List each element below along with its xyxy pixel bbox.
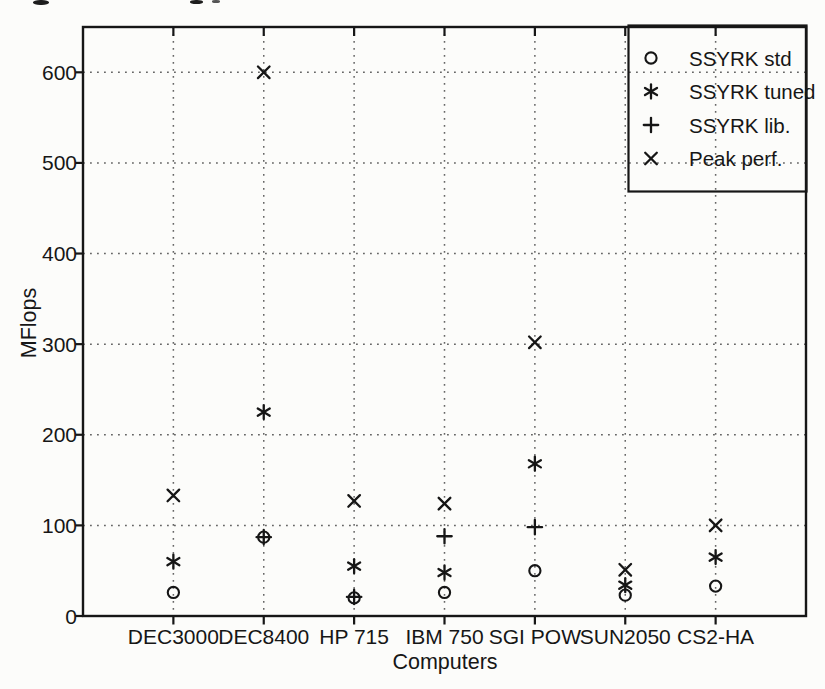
- y-tick-label: 500: [42, 151, 77, 174]
- x-marker: [439, 498, 451, 510]
- x-tick-label: CS2-HA: [677, 625, 754, 648]
- asterisk-marker: [348, 559, 360, 573]
- plus-marker: [257, 530, 271, 544]
- legend-label: SSYRK lib.: [689, 114, 790, 137]
- legend-label: Peak perf.: [689, 147, 782, 170]
- y-tick-labels: 0100200300400500600: [42, 61, 77, 628]
- legend-item: SSYRK std: [645, 47, 791, 70]
- x-axis-title: Computers: [392, 650, 497, 674]
- x-tick-label: SUN2050: [580, 625, 671, 648]
- legend-item: SSYRK tuned: [645, 80, 816, 103]
- x-tick-label: SGI POW: [489, 625, 581, 648]
- plus-marker: [644, 118, 658, 132]
- asterisk-marker: [258, 405, 270, 419]
- y-tick-label: 200: [42, 423, 77, 446]
- plus-marker: [528, 520, 542, 534]
- figure: 0100200300400500600 DEC3000DEC8400HP 715…: [0, 0, 825, 689]
- y-tick-label: 0: [65, 605, 77, 628]
- circle-marker: [645, 52, 656, 63]
- x-marker: [168, 490, 180, 502]
- scatter-plot: 0100200300400500600 DEC3000DEC8400HP 715…: [0, 0, 825, 689]
- legend: SSYRK std SSYRK tuned SSYRK lib. Peak pe…: [629, 26, 816, 192]
- legend-item: Peak perf.: [645, 147, 782, 170]
- x-tick-labels: DEC3000DEC8400HP 715IBM 750SGI POWSUN205…: [128, 625, 754, 648]
- asterisk-marker: [167, 555, 179, 569]
- legend-label: SSYRK std: [689, 47, 792, 70]
- y-axis-title: MFlops: [17, 288, 41, 358]
- y-tick-label: 600: [42, 61, 77, 84]
- y-tick-label: 400: [42, 242, 77, 265]
- x-tick-label: DEC8400: [218, 625, 309, 648]
- axis-ticks: [76, 28, 716, 625]
- asterisk-marker: [645, 85, 657, 99]
- plus-icon: [644, 118, 658, 132]
- asterisk-icon: [645, 85, 657, 99]
- asterisk-marker: [439, 566, 451, 580]
- x-marker: [710, 520, 722, 532]
- y-tick-label: 300: [42, 333, 77, 356]
- x-tick-label: HP 715: [319, 625, 389, 648]
- x-tick-label: DEC3000: [128, 625, 219, 648]
- asterisk-marker: [529, 457, 541, 471]
- asterisk-marker: [710, 550, 722, 564]
- circle-marker: [710, 580, 721, 591]
- legend-label: SSYRK tuned: [689, 80, 816, 103]
- x-marker: [529, 337, 541, 349]
- plus-marker: [437, 529, 451, 543]
- legend-item: SSYRK lib.: [644, 114, 791, 137]
- circle-icon: [645, 52, 656, 63]
- x-tick-label: IBM 750: [405, 625, 483, 648]
- y-tick-label: 100: [42, 514, 77, 537]
